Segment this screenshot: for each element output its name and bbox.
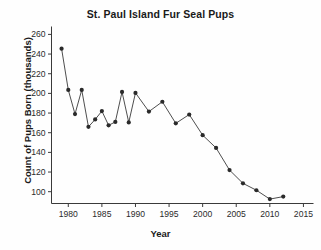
axis-lines bbox=[52, 27, 314, 204]
y-tick-label: 160 bbox=[31, 128, 46, 138]
chart-figure: St. Paul Island Fur Seal Pups Count of P… bbox=[0, 0, 321, 250]
y-tick-label: 140 bbox=[31, 147, 46, 157]
y-tick-label: 200 bbox=[31, 88, 46, 98]
x-tick-label: 1980 bbox=[59, 209, 78, 219]
data-point bbox=[201, 133, 205, 137]
plot-area: 100120140160180200220240260 198019851990… bbox=[0, 0, 321, 250]
data-point bbox=[214, 146, 218, 150]
data-point bbox=[227, 168, 231, 172]
x-tick-label: 1995 bbox=[160, 209, 179, 219]
x-tick-label: 1990 bbox=[126, 209, 145, 219]
x-tick-label: 1985 bbox=[92, 209, 111, 219]
x-axis-ticks: 19801985199019952000200520102015 bbox=[59, 204, 313, 220]
data-point bbox=[66, 88, 70, 92]
x-tick-label: 2000 bbox=[193, 209, 212, 219]
y-axis-ticks: 100120140160180200220240260 bbox=[31, 29, 51, 196]
data-point bbox=[147, 109, 151, 113]
data-point bbox=[281, 195, 285, 199]
data-point bbox=[107, 123, 111, 127]
data-point bbox=[73, 112, 77, 116]
y-tick-label: 260 bbox=[31, 29, 46, 39]
data-point bbox=[187, 112, 191, 116]
x-tick-label: 2005 bbox=[227, 209, 246, 219]
data-point bbox=[100, 109, 104, 113]
data-point bbox=[174, 121, 178, 125]
data-point bbox=[93, 117, 97, 121]
data-point bbox=[86, 125, 90, 129]
data-point bbox=[80, 88, 84, 92]
data-point bbox=[268, 197, 272, 201]
y-tick-label: 180 bbox=[31, 108, 46, 118]
x-tick-label: 2010 bbox=[260, 209, 279, 219]
data-point bbox=[113, 120, 117, 124]
y-tick-label: 120 bbox=[31, 167, 46, 177]
y-tick-label: 220 bbox=[31, 69, 46, 79]
data-point bbox=[59, 47, 63, 51]
x-tick-label: 2015 bbox=[294, 209, 313, 219]
y-tick-label: 240 bbox=[31, 49, 46, 59]
data-point bbox=[120, 90, 124, 94]
data-point bbox=[160, 100, 164, 104]
data-point bbox=[133, 91, 137, 95]
y-tick-label: 100 bbox=[31, 187, 46, 197]
data-point bbox=[254, 188, 258, 192]
data-point bbox=[127, 120, 131, 124]
data-point bbox=[241, 181, 245, 185]
data-point-markers bbox=[59, 47, 285, 202]
data-series-line bbox=[62, 49, 284, 199]
